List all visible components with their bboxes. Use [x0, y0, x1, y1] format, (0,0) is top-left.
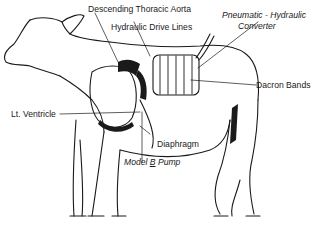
label-descending-thoracic-aorta: Descending Thoracic Aorta — [88, 5, 191, 14]
label-model-b-pump: Model B Pump — [124, 158, 180, 167]
label-pump-prefix: Model — [124, 157, 150, 167]
label-converter-line2: Converter — [238, 22, 276, 31]
diagram-canvas: Descending Thoracic Aorta Hydraulic Driv… — [0, 0, 321, 227]
label-hydraulic-drive-lines: Hydraulic Drive Lines — [111, 23, 192, 32]
label-lt-ventricle: Lt. Ventricle — [11, 110, 56, 119]
label-diaphragm: Diaphragm — [157, 140, 199, 149]
label-pump-suffix: Pump — [156, 157, 181, 167]
label-dacron-bands: Dacron Bands — [256, 81, 310, 90]
label-converter-line1: Pneumatic - Hydraulic — [222, 11, 306, 20]
